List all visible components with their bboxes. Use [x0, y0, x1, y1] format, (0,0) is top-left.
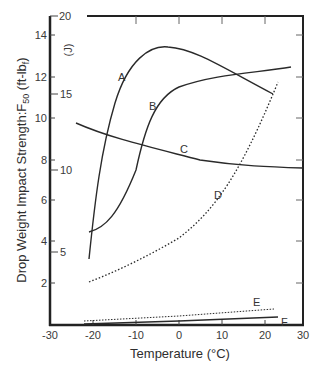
curve-label-a: A [118, 71, 126, 83]
impact-strength-chart: 2 4 6 8 10 12 14 5 10 15 20 (J) [0, 0, 319, 372]
y2-axis-unit: (J) [62, 44, 74, 57]
x-tick--10: -10 [128, 329, 144, 341]
x-axis-ticks: -30 -20 -10 0 10 20 30 [42, 16, 309, 341]
y-tick-8: 8 [41, 154, 47, 166]
x-tick-30: 30 [297, 329, 309, 341]
x-tick-10: 10 [216, 329, 228, 341]
x-tick-0: 0 [176, 329, 182, 341]
x-tick--20: -20 [85, 329, 101, 341]
y2-tick-10: 10 [60, 164, 72, 176]
y-axis-title: Drop Weight Impact Strength:F50 (ft-lbf) [14, 57, 31, 282]
curve-c [76, 123, 303, 168]
plot-frame [49, 16, 304, 326]
x-tick--30: -30 [42, 329, 58, 341]
y2-axis-ticks: 5 10 15 20 (J) [50, 10, 74, 258]
y-tick-14: 14 [35, 29, 47, 41]
curve-d [89, 82, 278, 282]
y-tick-12: 12 [35, 71, 47, 83]
curve-labels: A B C D E F [118, 71, 288, 328]
curve-label-f: F [281, 316, 288, 328]
curve-f [84, 317, 278, 324]
y2-tick-5: 5 [60, 246, 66, 258]
curve-label-c: C [180, 143, 188, 155]
y-axis-ticks: 2 4 6 8 10 12 14 [35, 29, 55, 289]
y-tick-2: 2 [41, 277, 47, 289]
right-axis-ticks [296, 35, 303, 283]
curve-label-d: D [214, 189, 222, 201]
y-tick-4: 4 [41, 235, 47, 247]
curve-e [84, 309, 274, 321]
curves [76, 47, 303, 324]
y2-tick-15: 15 [60, 88, 72, 100]
x-axis-title: Temperature (°C) [130, 346, 230, 361]
curve-label-e: E [253, 296, 260, 308]
y2-tick-20: 20 [59, 10, 71, 22]
y-tick-10: 10 [35, 112, 47, 124]
curve-label-b: B [149, 100, 156, 112]
x-tick-20: 20 [259, 329, 271, 341]
y-tick-6: 6 [41, 194, 47, 206]
